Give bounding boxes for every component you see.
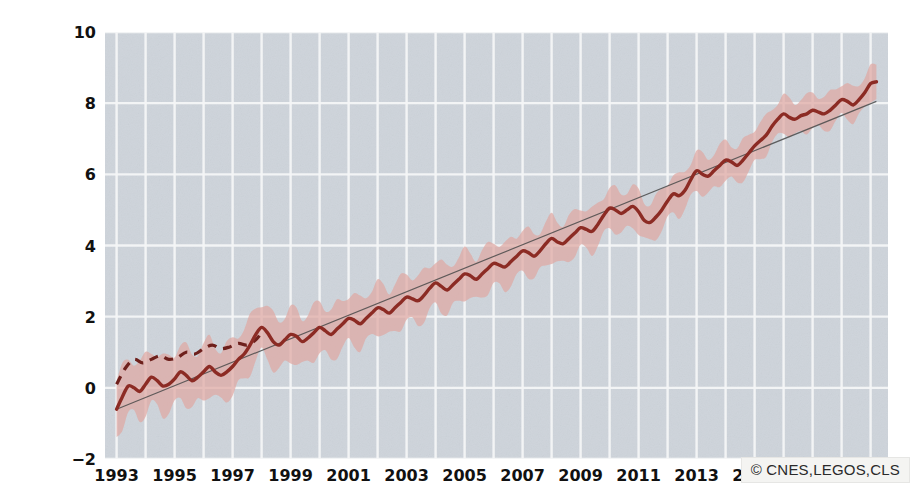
y-tick-0: 0: [50, 378, 96, 397]
plot-area: [105, 32, 888, 459]
sea-level-chart: Veränderungen des Meeresspiegel in cm −2…: [0, 0, 924, 501]
y-tick-8: 8: [50, 94, 96, 113]
y-axis-tick-labels: −20246810: [44, 0, 96, 501]
y-tick-4: 4: [50, 236, 96, 255]
y-tick-6: 6: [50, 165, 96, 184]
y-tick-2: 2: [50, 307, 96, 326]
attribution-label: © CNES,LEGOS,CLS: [741, 457, 910, 483]
plot-svg: [105, 32, 888, 459]
y-tick-10: 10: [50, 23, 96, 42]
